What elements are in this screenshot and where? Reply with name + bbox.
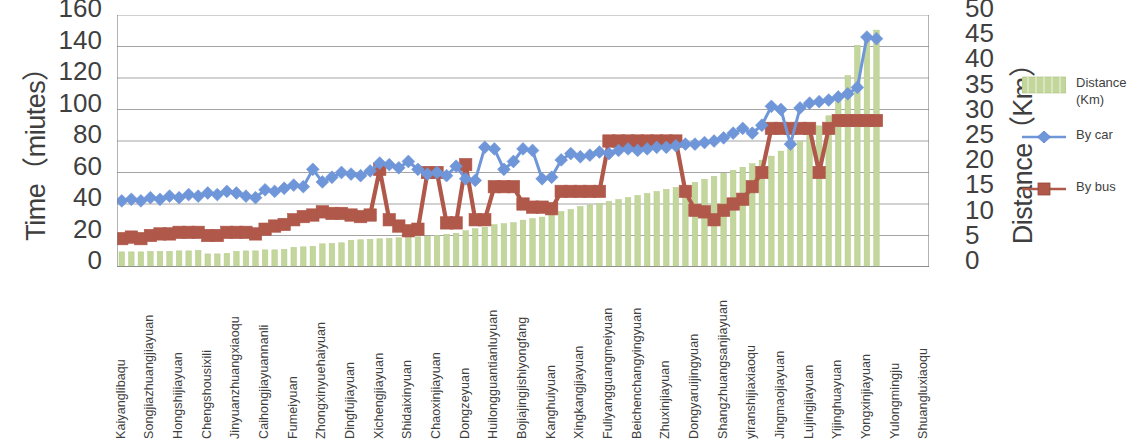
y-axis-left-ticks: 020406080100120140160 bbox=[46, 8, 106, 266]
x-axis-label: Dongyaruijingyuan bbox=[688, 334, 700, 439]
x-axis-label: Xichengjiayuan bbox=[373, 353, 385, 439]
y-tick-right-30: 30 bbox=[965, 96, 994, 122]
y-tick-right-10: 10 bbox=[965, 197, 994, 223]
x-axis-label: Zhuxinjiayuan bbox=[659, 361, 671, 439]
x-axis-label: Dongzeyuan bbox=[459, 368, 471, 439]
x-axis-label: Dingfujiayuan bbox=[344, 362, 356, 439]
legend-label-distance-main: Distance bbox=[1076, 75, 1127, 90]
y-tick-left-160: 160 bbox=[59, 0, 102, 21]
y-tick-left-60: 60 bbox=[73, 153, 102, 179]
x-axis-label: Bojiajingjishiyongfang bbox=[516, 317, 528, 439]
x-axis-label: Jinyuanzhuangxiaoqu bbox=[229, 316, 241, 439]
legend-item-distance: Distance (Km) bbox=[1022, 74, 1148, 126]
y-tick-left-100: 100 bbox=[59, 90, 102, 116]
legend-item-by-car: By car bbox=[1022, 126, 1148, 178]
y-tick-right-50: 50 bbox=[965, 0, 994, 21]
x-axis-label: Yulongmingju bbox=[889, 363, 901, 439]
y-tick-right-25: 25 bbox=[965, 121, 994, 147]
x-axis-label: Yongxinjiayuan bbox=[860, 354, 872, 439]
x-axis-label: Chengshousixili bbox=[201, 350, 213, 439]
x-axis-label: Jingmaojiayuan bbox=[774, 351, 786, 439]
by-bus-marker-icon bbox=[1022, 180, 1066, 198]
legend-label-distance: Distance (Km) bbox=[1076, 74, 1127, 108]
x-axis-category-labels: KaiyanglibaquSongjiazhuangjiayuanHongshi… bbox=[117, 271, 929, 439]
x-axis-label: yiranshijiaxiaoqu bbox=[745, 345, 757, 439]
plot-area bbox=[117, 15, 929, 267]
x-axis-label: Xingkangjiayuan bbox=[573, 346, 585, 439]
y-tick-right-40: 40 bbox=[965, 45, 994, 71]
legend-label-distance-unit: (Km) bbox=[1076, 91, 1127, 108]
y-tick-left-0: 0 bbox=[88, 247, 102, 273]
y-tick-left-20: 20 bbox=[73, 216, 102, 242]
legend-label-by-car: By car bbox=[1076, 126, 1113, 143]
legend-label-by-bus: By bus bbox=[1076, 178, 1116, 195]
by-car-marker-icon bbox=[1022, 128, 1066, 146]
x-axis-label: Yijinghuayuan bbox=[831, 360, 843, 439]
y-tick-left-140: 140 bbox=[59, 27, 102, 53]
y-tick-left-80: 80 bbox=[73, 121, 102, 147]
x-axis-label: Chaoxinjiayuan bbox=[430, 352, 442, 439]
x-axis-label: Lujingjiayuan bbox=[803, 365, 815, 439]
x-axis-label: Shangzhuangsanjiayuan bbox=[717, 300, 729, 439]
distance-swatch-icon bbox=[1022, 76, 1066, 94]
x-axis-label: Caihongjiayuannanli bbox=[258, 325, 270, 440]
x-axis-label: Songjiazhuangjiayuan bbox=[143, 315, 155, 439]
x-axis-label: Huilongguantianluyuan bbox=[487, 310, 499, 439]
y-tick-right-35: 35 bbox=[965, 71, 994, 97]
x-axis-label: Kanghuiyuan bbox=[545, 365, 557, 439]
series-by-bus bbox=[117, 114, 883, 245]
legend-item-by-bus: By bus bbox=[1022, 178, 1148, 230]
y-tick-right-20: 20 bbox=[965, 146, 994, 172]
y-tick-right-5: 5 bbox=[965, 222, 979, 248]
x-axis-label: Fumeiyuan bbox=[287, 376, 299, 439]
x-axis-label: Beichenchangyingyuan bbox=[631, 308, 643, 439]
y-tick-left-40: 40 bbox=[73, 184, 102, 210]
plot-svg bbox=[117, 15, 929, 267]
y-tick-right-15: 15 bbox=[965, 171, 994, 197]
x-axis-label: Kaiyanglibaqu bbox=[115, 359, 127, 439]
x-axis-label: Fuliyangguangmeiyuan bbox=[602, 308, 614, 439]
x-axis-label: Shuangluxiaoqu bbox=[917, 348, 929, 439]
y-axis-right-ticks: 05101520253035404550 bbox=[963, 8, 1023, 266]
chart-legend: Distance (Km) By car By bus bbox=[1022, 74, 1148, 230]
y-tick-left-120: 120 bbox=[59, 58, 102, 84]
chart-container: Time（miutes） Distance（Km） 02040608010012… bbox=[0, 0, 1148, 440]
x-axis-label: Hongshijiayuan bbox=[172, 352, 184, 439]
x-axis-label: Shidaixinyuan bbox=[401, 360, 413, 439]
y-tick-right-45: 45 bbox=[965, 20, 994, 46]
y-tick-right-0: 0 bbox=[965, 247, 979, 273]
x-axis-label: Zhongxinyuehaiyuan bbox=[315, 322, 327, 439]
